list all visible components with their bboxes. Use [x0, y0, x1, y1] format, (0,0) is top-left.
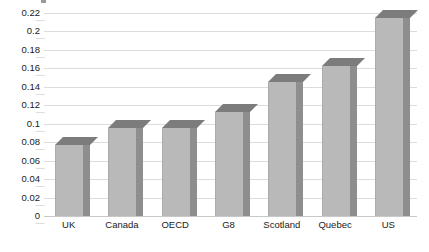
x-axis-tick-label: Canada: [105, 220, 138, 230]
bar-top-face: [322, 58, 365, 66]
y-axis: 0.220.20.180.160.140.120.10.080.060.040.…: [0, 13, 40, 216]
bar-front-face: [268, 82, 296, 216]
y-axis-tick-label: 0: [0, 211, 40, 221]
bar-front-face: [322, 66, 350, 216]
gridline: [44, 31, 417, 32]
gridline: [44, 87, 417, 88]
bar-top-face: [215, 104, 258, 112]
bar-top-face: [375, 10, 418, 18]
cropped-title-fragment: [41, 0, 46, 3]
bar: [215, 112, 242, 216]
bar: [55, 145, 82, 216]
x-axis-tick-label: Scotland: [263, 220, 300, 230]
y-axis-tick-label: 0.08: [0, 137, 40, 147]
bar-side-face: [295, 82, 303, 216]
gridline: [44, 50, 417, 51]
y-axis-tick-label: 0.2: [0, 27, 40, 37]
y-axis-tick-label: 0.14: [0, 82, 40, 92]
x-axis-tick-label: UK: [62, 220, 75, 230]
bar-side-face: [242, 112, 250, 216]
bar-front-face: [215, 112, 243, 216]
bar: [268, 82, 295, 216]
gridline: [44, 13, 417, 14]
bar-top-face: [162, 120, 205, 128]
bar: [162, 128, 189, 216]
y-axis-tick-label: 0.18: [0, 45, 40, 55]
y-axis-tick-label: 0.02: [0, 193, 40, 203]
bar-side-face: [82, 145, 90, 216]
bar: [108, 128, 135, 216]
y-axis-tick-label: 0.22: [0, 8, 40, 18]
bar-side-face: [189, 128, 197, 216]
gridline: [44, 68, 417, 69]
bar-top-face: [268, 74, 311, 82]
bar: [322, 66, 349, 216]
x-axis: UKCanadaOECDG8ScotlandQuebecUS: [44, 220, 417, 240]
y-axis-tick-label: 0.1: [0, 119, 40, 129]
bar-front-face: [375, 18, 403, 216]
bar-front-face: [108, 128, 136, 216]
bar-chart: 0.220.20.180.160.140.120.10.080.060.040.…: [0, 0, 429, 252]
x-axis-tick-label: OECD: [161, 220, 188, 230]
x-axis-tick-label: G8: [222, 220, 235, 230]
bar-side-face: [349, 66, 357, 216]
x-axis-tick-label: US: [382, 220, 395, 230]
y-axis-tick-label: 0.16: [0, 64, 40, 74]
gridline: [44, 216, 417, 217]
plot-area: [44, 13, 417, 216]
bar-top-face: [108, 120, 151, 128]
bar-top-face: [55, 137, 98, 145]
bar-front-face: [55, 145, 83, 216]
bar-side-face: [135, 128, 143, 216]
y-axis-tick-label: 0.04: [0, 174, 40, 184]
bar-front-face: [162, 128, 190, 216]
y-axis-tick-label: 0.06: [0, 156, 40, 166]
bar-side-face: [402, 18, 410, 216]
y-axis-tick-label: 0.12: [0, 101, 40, 111]
bar: [375, 18, 402, 216]
x-axis-tick-label: Quebec: [318, 220, 351, 230]
